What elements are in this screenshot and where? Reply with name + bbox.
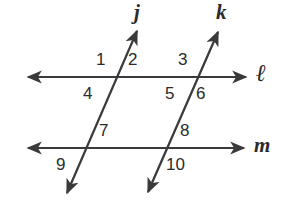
angle-label-1: 1 — [96, 51, 105, 68]
angle-label-10: 10 — [166, 156, 185, 173]
angle-label-2: 2 — [128, 51, 137, 68]
geometry-figure: j k ℓ m 1 2 3 4 5 6 7 8 9 10 — [0, 0, 293, 208]
parallel-lines-group — [28, 77, 246, 148]
line-label-k: k — [216, 2, 227, 23]
line-label-j: j — [134, 2, 140, 23]
geometry-diagram-canvas — [0, 0, 293, 208]
angle-label-6: 6 — [196, 85, 205, 102]
line-label-l: ℓ — [256, 61, 266, 85]
angle-label-3: 3 — [178, 51, 187, 68]
line-label-m: m — [254, 135, 270, 156]
angle-label-5: 5 — [165, 85, 174, 102]
angle-label-4: 4 — [83, 85, 92, 102]
angle-label-7: 7 — [99, 122, 108, 139]
angle-label-8: 8 — [180, 122, 189, 139]
angle-label-9: 9 — [56, 156, 65, 173]
transversal-lines-group — [67, 31, 218, 193]
